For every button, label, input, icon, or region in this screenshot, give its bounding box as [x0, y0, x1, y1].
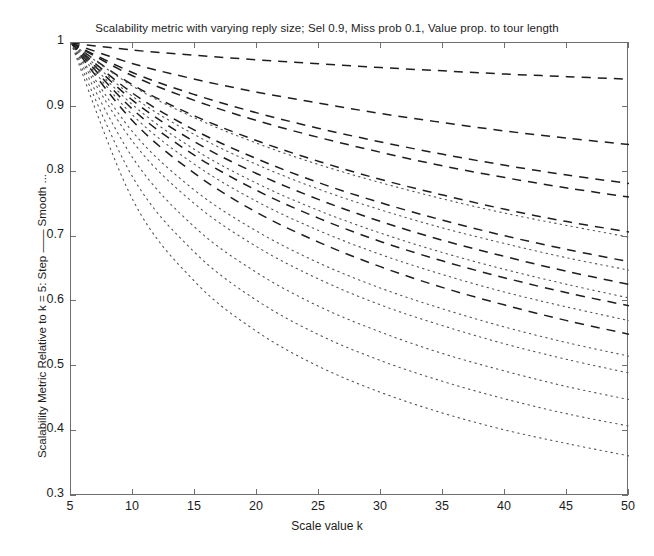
x-tick-mark-top — [132, 42, 133, 48]
x-tick-mark — [504, 489, 505, 495]
y-tick-mark — [70, 495, 76, 496]
x-tick-mark-top — [70, 42, 71, 48]
x-tick-mark — [628, 489, 629, 495]
y-tick-label: 0.3 — [18, 486, 64, 500]
y-tick-label: 0.8 — [18, 162, 64, 176]
x-tick-mark — [70, 489, 71, 495]
y-tick-mark — [70, 42, 76, 43]
series-line — [71, 43, 629, 426]
x-tick-mark — [318, 489, 319, 495]
x-tick-mark — [194, 489, 195, 495]
y-tick-label: 0.5 — [18, 357, 64, 371]
x-tick-label: 15 — [171, 499, 217, 513]
series-line — [71, 43, 629, 270]
y-tick-label: 0.9 — [18, 98, 64, 112]
y-tick-mark — [70, 430, 76, 431]
y-tick-mark — [70, 365, 76, 366]
x-tick-label: 40 — [481, 499, 527, 513]
y-tick-mark — [70, 106, 76, 107]
x-tick-label: 45 — [543, 499, 589, 513]
x-tick-label: 30 — [357, 499, 403, 513]
y-tick-mark-right — [622, 430, 628, 431]
x-tick-mark-top — [380, 42, 381, 48]
x-tick-label: 50 — [605, 499, 651, 513]
series-line — [71, 43, 629, 183]
x-axis-title: Scale value k — [0, 519, 654, 533]
series-line — [71, 43, 629, 79]
x-tick-mark-top — [256, 42, 257, 48]
chart-figure: Scalability metric with varying reply si… — [0, 0, 654, 556]
curve-canvas — [71, 43, 629, 496]
y-tick-mark-right — [622, 236, 628, 237]
series-line — [71, 43, 629, 456]
y-tick-label: 0.7 — [18, 227, 64, 241]
x-tick-label: 5 — [47, 499, 93, 513]
series-line — [71, 43, 629, 237]
x-tick-label: 35 — [419, 499, 465, 513]
y-tick-mark-right — [622, 300, 628, 301]
plot-area — [70, 42, 628, 495]
x-tick-mark-top — [628, 42, 629, 48]
x-tick-mark-top — [194, 42, 195, 48]
y-tick-mark-right — [622, 365, 628, 366]
x-tick-mark — [132, 489, 133, 495]
series-line — [71, 43, 629, 334]
x-tick-mark-top — [318, 42, 319, 48]
series-line — [71, 43, 629, 232]
y-tick-label: 1 — [18, 33, 64, 47]
x-tick-mark — [442, 489, 443, 495]
x-tick-mark — [256, 489, 257, 495]
series-line — [71, 43, 629, 356]
x-tick-mark — [566, 489, 567, 495]
series-line — [71, 43, 629, 284]
x-tick-label: 25 — [295, 499, 341, 513]
series-line — [71, 43, 629, 145]
x-tick-mark-top — [566, 42, 567, 48]
x-tick-mark-top — [442, 42, 443, 48]
y-tick-label: 0.4 — [18, 421, 64, 435]
y-tick-mark-right — [622, 106, 628, 107]
y-tick-mark — [70, 171, 76, 172]
y-axis-title-container: Scalability Metric Relative to k = 5: St… — [12, 60, 34, 480]
series-line — [71, 43, 629, 262]
x-tick-label: 20 — [233, 499, 279, 513]
y-tick-mark — [70, 236, 76, 237]
x-tick-mark — [380, 489, 381, 495]
x-tick-mark-top — [504, 42, 505, 48]
y-tick-label: 0.6 — [18, 292, 64, 306]
x-tick-label: 10 — [109, 499, 155, 513]
y-tick-mark — [70, 300, 76, 301]
y-tick-mark-right — [622, 171, 628, 172]
series-line — [71, 43, 629, 373]
chart-title: Scalability metric with varying reply si… — [0, 22, 654, 34]
